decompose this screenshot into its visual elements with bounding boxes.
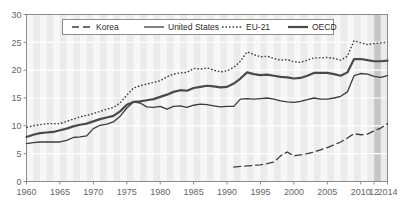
y-axis-tick-label: 15 [11,93,21,103]
legend-label-united-states: United States [168,22,219,32]
y-axis-tick-label: 25 [11,38,21,48]
x-axis-tick-label: 1995 [250,187,270,197]
y-axis-tick-label: 10 [11,121,21,131]
x-axis-tick-label: 1985 [184,187,204,197]
x-axis-tick-label: 2000 [284,187,304,197]
y-axis-tick-label: 20 [11,65,21,75]
chart-canvas: 0510152025301960196519701975198019851990… [0,0,409,206]
x-axis-tick-label: 2005 [317,187,337,197]
x-axis-tick-label: 2014 [377,187,397,197]
legend-label-eu-21: EU-21 [246,22,270,32]
x-axis-tick-label: 1970 [83,187,103,197]
x-axis-tick-label: 1975 [117,187,137,197]
legend-label-korea: Korea [96,22,119,32]
y-axis-tick-label: 0 [16,177,21,187]
y-axis-tick-label: 5 [16,149,21,159]
line-chart: 0510152025301960196519701975198019851990… [0,0,409,206]
y-axis-tick-label: 30 [11,10,21,20]
x-axis-tick-label: 1980 [150,187,170,197]
legend-label-oecd: OECD [312,22,337,32]
x-axis-tick-label: 1990 [217,187,237,197]
x-axis-tick-label: 2010 [351,187,371,197]
x-axis-tick-label: 1965 [50,187,70,197]
x-axis-tick-label: 1960 [16,187,36,197]
